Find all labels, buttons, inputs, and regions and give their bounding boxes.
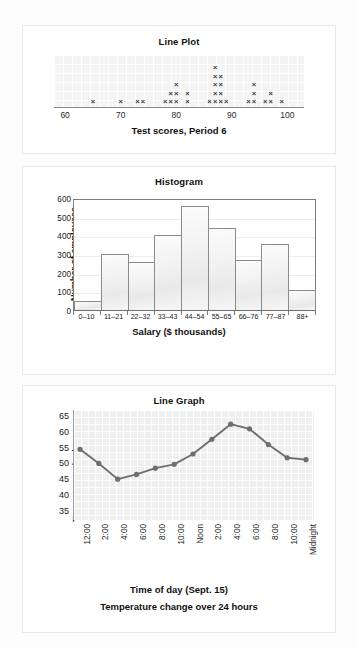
line-graph-x-tick-label: 2:00: [101, 524, 110, 540]
histogram-x-tick-label: 44–54: [181, 313, 208, 321]
line-graph-y-tick-label: 65: [59, 411, 69, 421]
line-plot-mark-icon: ×: [118, 98, 122, 107]
line-graph-x-tick-label: Midnight: [309, 524, 318, 555]
line-graph-y-tick-label: 60: [59, 427, 69, 437]
histogram-y-tick-label: 0: [66, 307, 71, 316]
line-graph-series: [74, 410, 314, 520]
line-graph-data-point: [247, 426, 252, 431]
histogram-y-ticks: 0100200300400500600: [45, 199, 71, 311]
line-graph-y-tick-label: 55: [59, 443, 69, 453]
histogram-bar: [288, 290, 316, 310]
histogram-y-tick-label: 100: [57, 288, 71, 297]
histogram-y-tick-label: 400: [57, 232, 71, 241]
line-graph-data-point: [228, 422, 233, 427]
histogram-y-tick-label: 200: [57, 269, 71, 278]
histogram-y-tick-label: 300: [57, 251, 71, 260]
histogram-x-tick-label: 88+: [289, 313, 316, 321]
histogram-figure: Number of employees 0100200300400500600 …: [23, 193, 335, 343]
line-plot-column: ×××: [171, 81, 182, 107]
line-plot-card: Line Plot ××××××××××××××××××××××××××××××…: [22, 25, 336, 154]
line-plot-x-tick-label: 60: [60, 110, 69, 120]
line-plot-column: ×: [87, 98, 98, 107]
line-graph-x-tick-label: 4:00: [233, 524, 242, 540]
line-graph-x-tick-label: Noon: [196, 524, 205, 544]
line-graph-data-point: [266, 442, 271, 447]
line-plot-mark-icon: ×: [174, 98, 178, 107]
line-plot-mark-icon: ×: [141, 98, 145, 107]
line-plot-mark-icon: ×: [185, 98, 189, 107]
line-plot-column: ×: [137, 98, 148, 107]
histogram-bar: [154, 235, 182, 310]
line-graph-card: Line Graph Temperature in degrees 354045…: [22, 385, 336, 633]
line-graph-x-tick-label: 6:00: [139, 524, 148, 540]
line-plot-x-tick-label: 90: [227, 110, 236, 120]
histogram-bar: [181, 206, 209, 310]
line-graph-x-tick-label: 2:00: [214, 524, 223, 540]
line-graph-x-tick-label: 8:00: [158, 524, 167, 540]
line-graph-x-tick-label: 8:00: [271, 524, 280, 540]
line-graph-x-axis-label: Time of day (Sept. 15): [23, 584, 335, 595]
line-plot-mark-icon: ×: [268, 98, 272, 107]
histogram-x-tick-label: 55–65: [208, 313, 235, 321]
histogram-y-tick-label: 600: [57, 195, 71, 204]
histogram-x-ticks: 0–1011–2122–3233–4344–5455–6566–7677–878…: [73, 313, 316, 321]
line-graph-data-point: [209, 437, 214, 442]
line-graph-data-point: [285, 455, 290, 460]
line-plot-mark-icon: ×: [252, 98, 256, 107]
line-graph-y-tick-label: 40: [59, 490, 69, 500]
histogram-x-tick-label: 0–10: [73, 313, 100, 321]
line-plot-column: ×: [115, 98, 126, 107]
line-plot-column: ×: [221, 98, 232, 107]
histogram-bar: [261, 244, 289, 310]
line-graph-x-tick-label: 10:00: [177, 524, 186, 545]
line-graph-data-point: [303, 457, 308, 462]
line-graph-x-tick-label: 12:00: [83, 524, 92, 545]
histogram-x-tick-label: 66–76: [235, 313, 262, 321]
line-plot-x-tick-label: 80: [171, 110, 180, 120]
line-graph-x-tick-label: 6:00: [252, 524, 261, 540]
histogram-x-tick-label: 22–32: [127, 313, 154, 321]
histogram-bar: [74, 301, 102, 310]
line-plot-mark-icon: ×: [224, 98, 228, 107]
histogram-x-axis-label: Salary ($ thousands): [23, 326, 335, 337]
line-graph-data-point: [153, 466, 158, 471]
line-plot-column: ×: [276, 98, 287, 107]
line-graph-caption: Temperature change over 24 hours: [23, 601, 335, 612]
line-plot-x-tick-label: 70: [116, 110, 125, 120]
line-graph-data-point: [115, 477, 120, 482]
line-plot-column: ××: [265, 90, 276, 107]
line-plot-mark-icon: ×: [280, 98, 284, 107]
line-graph-title: Line Graph: [23, 395, 335, 406]
line-plot-column: ××: [182, 90, 193, 107]
line-plot-figure: ××××××××××××××××××××××××××××××× 60708090…: [54, 55, 304, 136]
histogram-bar: [128, 262, 156, 310]
histogram-plot-area: [73, 199, 316, 311]
line-graph-plot-area: [73, 410, 314, 520]
line-plot-x-tick-label: 100: [280, 110, 294, 120]
line-graph-data-point: [172, 462, 177, 467]
histogram-bar: [208, 228, 236, 310]
line-graph-data-point: [96, 461, 101, 466]
line-graph-x-tick-label: 10:00: [290, 524, 299, 545]
histogram-title: Histogram: [23, 176, 335, 187]
histogram-x-tick-label: 33–43: [154, 313, 181, 321]
histogram-bar: [235, 260, 263, 310]
line-graph-x-ticks: 12:002:004:006:008:0010:00Noon2:004:006:…: [73, 524, 313, 580]
line-plot-mark-icon: ×: [91, 98, 95, 107]
line-plot-x-axis-label: Test scores, Period 6: [54, 125, 304, 136]
line-graph-y-tick-label: 35: [59, 506, 69, 516]
histogram-bar: [101, 254, 129, 310]
line-graph-data-point: [134, 472, 139, 477]
line-graph-data-point: [77, 447, 82, 452]
histogram-card: Histogram Number of employees 0100200300…: [22, 166, 336, 375]
worksheet-page: Line Plot ××××××××××××××××××××××××××××××…: [0, 0, 357, 649]
histogram-x-tick-label: 11–21: [100, 313, 127, 321]
histogram-y-tick-label: 500: [57, 213, 71, 222]
line-graph-y-ticks: 35404550556065: [43, 410, 69, 520]
histogram-x-tick-label: 77–87: [262, 313, 289, 321]
line-graph-y-tick-label: 50: [59, 458, 69, 468]
line-graph-data-point: [190, 451, 195, 456]
line-graph-y-tick-label: 45: [59, 474, 69, 484]
line-plot-area: ×××××××××××××××××××××××××××××××: [54, 55, 304, 108]
line-graph-x-tick-label: 4:00: [120, 524, 129, 540]
